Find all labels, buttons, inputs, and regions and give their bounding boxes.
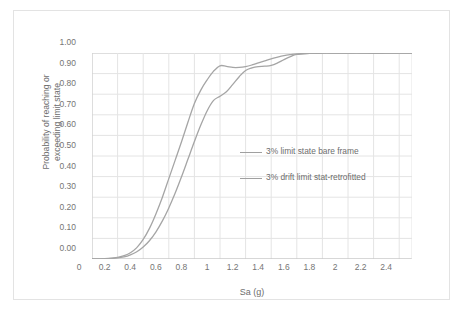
x-tick-label-12: 2.4 bbox=[373, 263, 399, 272]
x-tick-label-7: 1.4 bbox=[245, 263, 271, 272]
y-tick-label-1: 0.10 bbox=[40, 223, 76, 232]
y-axis-title-line-1: Probability of reaching or bbox=[41, 22, 52, 222]
x-tick-label-11: 2.2 bbox=[348, 263, 374, 272]
x-tick-label-0: 0 bbox=[66, 263, 92, 272]
x-tick-label-9: 1.8 bbox=[296, 263, 322, 272]
legend-label-1: 3% drift limit stat-retrofitted bbox=[266, 172, 366, 183]
x-tick-label-3: 0.6 bbox=[143, 263, 169, 272]
y-tick-label-0: 0.00 bbox=[40, 244, 76, 253]
y-axis-title-line-2: exceeding limit state bbox=[52, 22, 63, 222]
x-tick-label-10: 2 bbox=[322, 263, 348, 272]
x-tick-label-2: 0.4 bbox=[117, 263, 143, 272]
x-axis-title: Sa (g) bbox=[172, 287, 332, 297]
legend-line-icon-1 bbox=[240, 178, 262, 179]
y-axis-title: Probability of reaching or exceeding lim… bbox=[41, 22, 63, 222]
legend-line-icon-0 bbox=[240, 152, 262, 153]
x-tick-label-6: 1.2 bbox=[220, 263, 246, 272]
legend-label-0: 3% limit state bare frame bbox=[266, 146, 359, 157]
legend-item-1[interactable]: 3% drift limit stat-retrofitted bbox=[240, 170, 420, 196]
x-tick-label-4: 0.8 bbox=[168, 263, 194, 272]
legend-item-0[interactable]: 3% limit state bare frame bbox=[240, 144, 420, 170]
x-tick-label-1: 0.2 bbox=[92, 263, 118, 272]
chart-legend: 3% limit state bare frame 3% drift limit… bbox=[240, 144, 420, 196]
x-tick-label-5: 1 bbox=[194, 263, 220, 272]
x-tick-label-8: 1.6 bbox=[271, 263, 297, 272]
chart-frame: 3% limit state bare frame 3% drift limit… bbox=[13, 10, 450, 300]
